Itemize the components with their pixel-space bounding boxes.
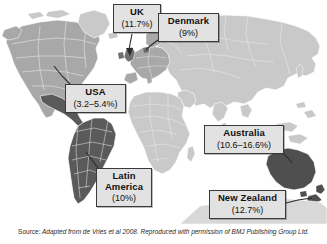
world-prevalence-figure: UK (11.7%) Denmark (9%) USA (3.2–5.4%) L… <box>0 0 327 244</box>
callout-latin-america-name-line2: America <box>101 182 147 193</box>
callout-denmark-name: Denmark <box>163 16 214 27</box>
callout-uk-name: UK <box>118 7 156 18</box>
callout-uk[interactable]: UK (11.7%) <box>113 4 161 33</box>
source-caption: Source: Adapted from de Vries et al 2008… <box>0 228 327 235</box>
callout-latin-america[interactable]: Latin America (10%) <box>96 168 152 207</box>
callout-new-zealand-value: (12.7%) <box>214 205 281 215</box>
callout-uk-value: (11.7%) <box>118 19 156 29</box>
callout-usa-value: (3.2–5.4%) <box>70 99 121 109</box>
callout-new-zealand[interactable]: New Zealand (12.7%) <box>209 190 286 219</box>
callout-australia-value: (10.6–16.6%) <box>209 140 279 150</box>
source-label: Source: <box>18 228 40 235</box>
denmark-highlight <box>143 47 149 53</box>
source-text: Adapted from de Vries et al 2008. Reprod… <box>40 228 308 235</box>
callout-usa-name: USA <box>70 87 121 98</box>
callout-denmark[interactable]: Denmark (9%) <box>158 13 219 42</box>
callout-australia[interactable]: Australia (10.6–16.6%) <box>204 125 284 154</box>
callout-new-zealand-name: New Zealand <box>214 193 281 204</box>
callout-latin-america-value: (10%) <box>101 193 147 203</box>
callout-australia-name: Australia <box>209 128 279 139</box>
callout-denmark-value: (9%) <box>163 28 214 38</box>
callout-usa[interactable]: USA (3.2–5.4%) <box>65 84 126 113</box>
